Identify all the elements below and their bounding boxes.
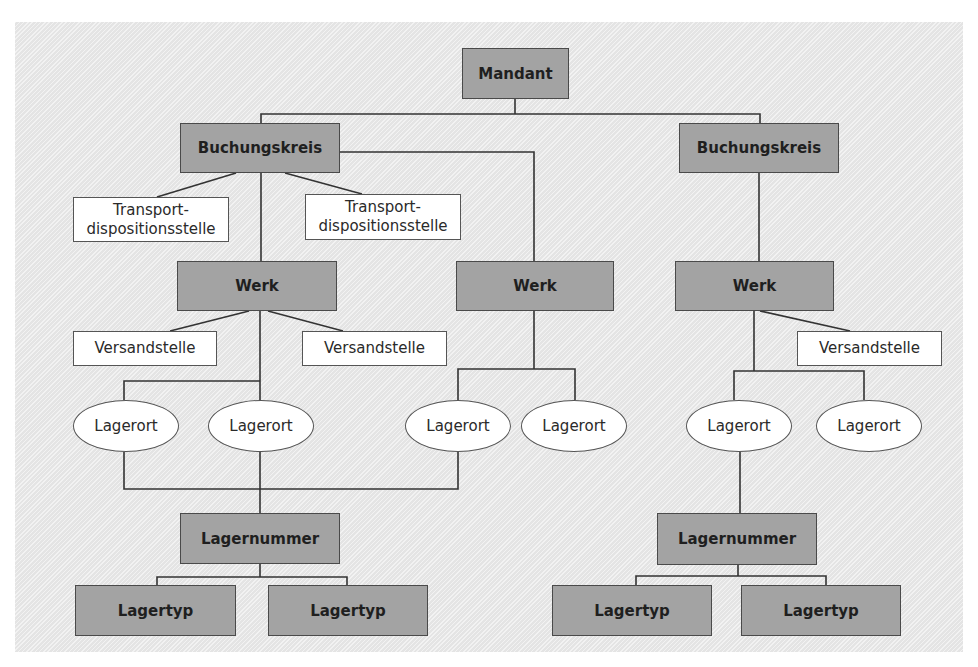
versandstelle-label: Versandstelle <box>94 339 195 358</box>
versandstelle-node-2[interactable]: Versandstelle <box>302 331 447 366</box>
lagerort-node-5[interactable]: Lagerort <box>686 400 792 452</box>
mandant-label: Mandant <box>478 65 552 83</box>
werk-node-3[interactable]: Werk <box>675 261 834 311</box>
werk-label: Werk <box>235 277 279 295</box>
lagertyp-node-4[interactable]: Lagertyp <box>741 585 901 636</box>
mandant-node[interactable]: Mandant <box>462 48 569 99</box>
lagerort-node-6[interactable]: Lagerort <box>816 400 922 452</box>
werk-label: Werk <box>733 277 777 295</box>
lagernummer-node-2[interactable]: Lagernummer <box>657 513 817 565</box>
versandstelle-label: Versandstelle <box>324 339 425 358</box>
lagerort-node-3[interactable]: Lagerort <box>405 400 511 452</box>
versandstelle-label: Versandstelle <box>819 339 920 358</box>
versandstelle-node-3[interactable]: Versandstelle <box>797 331 942 366</box>
lagernummer-label: Lagernummer <box>678 530 796 548</box>
lagerort-node-2[interactable]: Lagerort <box>208 400 314 452</box>
lagerort-node-4[interactable]: Lagerort <box>521 400 627 452</box>
buchungskreis-node-2[interactable]: Buchungskreis <box>679 123 839 173</box>
transportdispositionsstelle-label: Transport- dispositionsstelle <box>318 198 447 236</box>
lagerort-node-1[interactable]: Lagerort <box>73 400 179 452</box>
lagertyp-node-1[interactable]: Lagertyp <box>75 585 236 636</box>
buchungskreis-node-1[interactable]: Buchungskreis <box>180 123 340 173</box>
lagerort-label: Lagerort <box>837 417 900 435</box>
lagertyp-label: Lagertyp <box>783 602 859 620</box>
werk-label: Werk <box>513 277 557 295</box>
lagertyp-label: Lagertyp <box>594 602 670 620</box>
lagerort-label: Lagerort <box>426 417 489 435</box>
werk-node-1[interactable]: Werk <box>177 261 337 311</box>
lagernummer-label: Lagernummer <box>201 530 319 548</box>
lagerort-label: Lagerort <box>707 417 770 435</box>
transportdispositionsstelle-node-2[interactable]: Transport- dispositionsstelle <box>305 194 461 240</box>
lagertyp-label: Lagertyp <box>310 602 386 620</box>
buchungskreis-label: Buchungskreis <box>198 139 322 157</box>
lagerort-label: Lagerort <box>542 417 605 435</box>
lagerort-label: Lagerort <box>94 417 157 435</box>
lagertyp-node-2[interactable]: Lagertyp <box>268 585 428 636</box>
werk-node-2[interactable]: Werk <box>456 261 614 311</box>
lagerort-label: Lagerort <box>229 417 292 435</box>
lagertyp-node-3[interactable]: Lagertyp <box>552 585 712 636</box>
buchungskreis-label: Buchungskreis <box>697 139 821 157</box>
lagertyp-label: Lagertyp <box>118 602 194 620</box>
versandstelle-node-1[interactable]: Versandstelle <box>73 331 217 366</box>
lagernummer-node-1[interactable]: Lagernummer <box>180 513 340 564</box>
transportdispositionsstelle-label: Transport- dispositionsstelle <box>86 201 215 239</box>
transportdispositionsstelle-node-1[interactable]: Transport- dispositionsstelle <box>73 197 229 242</box>
